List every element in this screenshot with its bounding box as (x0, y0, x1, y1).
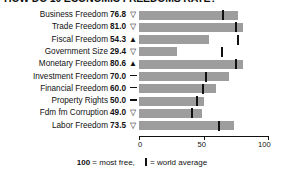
axis-tick-label: 50 (198, 140, 206, 149)
trend-up-icon: ▲ (128, 35, 138, 45)
row-value: 73.5 (108, 121, 126, 131)
bar-track (139, 35, 268, 44)
world-average-tick (235, 59, 237, 69)
row-value: 54.3 (108, 35, 126, 45)
bar-track (139, 47, 268, 56)
trend-up-icon: ▲ (128, 59, 138, 69)
economic-freedom-chart: HOW DO 10 ECONOMIC FREEDOMS RATE? Busine… (0, 0, 284, 177)
legend-most-free-text: = most free, (90, 158, 135, 167)
trend-flat-icon (128, 84, 138, 94)
world-average-tick (218, 121, 220, 131)
bar-fill (139, 97, 204, 106)
chart-plot-area: Business Freedom76.8▽Trade Freedom81.0▽F… (0, 10, 284, 138)
legend-most-free-value: 100 (77, 158, 90, 167)
chart-title-clipped: HOW DO 10 ECONOMIC FREEDOMS RATE? (0, 0, 284, 6)
world-average-tick (221, 47, 223, 57)
trend-down-icon: ▽ (128, 22, 138, 32)
chart-row: Business Freedom76.8▽ (0, 10, 284, 22)
row-label-fiscal-freedom: Fiscal Freedom (0, 35, 108, 45)
trend-down-icon: ▽ (128, 108, 138, 118)
row-label-trade-freedom: Trade Freedom (0, 22, 108, 32)
row-value: 29.4 (108, 47, 126, 57)
row-value: 49.0 (108, 108, 126, 118)
world-average-marker-icon (145, 158, 147, 166)
bar-track (139, 121, 268, 130)
row-value: 70.0 (108, 72, 126, 82)
row-label-investment-freedom: Investment Freedom (0, 72, 108, 82)
bar-fill (139, 84, 216, 93)
row-label-property-rights: Property Rights (0, 96, 108, 106)
bar-track (139, 72, 268, 81)
world-average-tick (205, 72, 207, 82)
world-average-tick (237, 35, 239, 45)
bar-track (139, 23, 268, 32)
bar-track (139, 84, 268, 93)
trend-flat-icon (128, 96, 138, 106)
bar-fill (139, 35, 209, 44)
row-value: 80.6 (108, 59, 126, 69)
row-label-financial-freedom: Financial Freedom (0, 84, 108, 94)
bar-track (139, 60, 268, 69)
row-label-government-size: Government Size (0, 47, 108, 57)
page-title: HOW DO 10 ECONOMIC FREEDOMS RATE? (4, 0, 217, 4)
axis-tick-label: 100 (258, 140, 271, 149)
world-average-tick (191, 108, 193, 118)
bar-fill (139, 23, 243, 32)
row-value: 81.0 (108, 22, 126, 32)
chart-row: Government Size29.4▽ (0, 47, 284, 59)
trend-flat-icon (128, 72, 138, 82)
row-value: 60.0 (108, 84, 126, 94)
bar-fill (139, 72, 229, 81)
bar-fill (139, 60, 243, 69)
chart-row: Labor Freedom73.5▽ (0, 121, 284, 133)
row-label-fdm-fm-corruption: Fdm fm Corruption (0, 108, 108, 118)
world-average-tick (202, 84, 204, 94)
chart-legend: 100 = most free, = world average (0, 158, 284, 167)
chart-row: Investment Freedom70.0 (0, 72, 284, 84)
row-label-labor-freedom: Labor Freedom (0, 121, 108, 131)
row-label-monetary-freedom: Monetary Freedom (0, 59, 108, 69)
chart-row: Financial Freedom60.0 (0, 84, 284, 96)
row-value: 76.8 (108, 10, 126, 20)
chart-row: Trade Freedom81.0▽ (0, 22, 284, 34)
world-average-tick (222, 10, 224, 20)
chart-row: Fiscal Freedom54.3▲ (0, 35, 284, 47)
world-average-tick (196, 96, 198, 106)
chart-row: Monetary Freedom80.6▲ (0, 59, 284, 71)
trend-down-icon: ▽ (128, 121, 138, 131)
world-average-tick (235, 22, 237, 32)
legend-world-average-text: = world average (148, 158, 207, 167)
bar-track (139, 109, 268, 118)
row-value: 50.0 (108, 96, 126, 106)
row-label-business-freedom: Business Freedom (0, 10, 108, 20)
axis-tick-label: 0 (138, 140, 142, 149)
chart-row: Property Rights50.0 (0, 96, 284, 108)
trend-down-icon: ▽ (128, 47, 138, 57)
chart-row: Fdm fm Corruption49.0▽ (0, 108, 284, 120)
trend-down-icon: ▽ (128, 10, 138, 20)
bar-track (139, 11, 268, 20)
bar-track (139, 97, 268, 106)
bar-fill (139, 47, 177, 56)
